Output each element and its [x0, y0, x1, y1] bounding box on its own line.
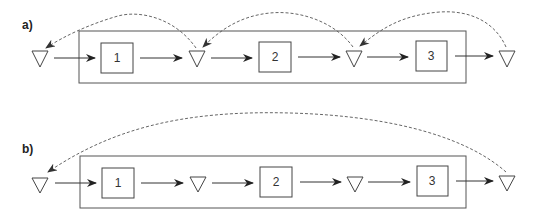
- stage-box-2-label: 2: [273, 175, 280, 189]
- buffer-triangle-icon: [189, 51, 205, 67]
- stage-box-2-label: 2: [272, 50, 279, 64]
- feedback-arc: [48, 113, 506, 172]
- stage-box-3-label: 3: [428, 49, 435, 63]
- buffer-triangle-icon: [32, 51, 48, 67]
- panel-a-label: a): [22, 18, 33, 32]
- stage-box-3-label: 3: [429, 174, 436, 188]
- feedback-arc: [360, 12, 506, 47]
- diagram-canvas: a) 1 2 3 b) 1: [0, 0, 539, 220]
- panel-a: a) 1 2 3: [22, 12, 515, 83]
- panel-b: b) 1 2 3: [22, 113, 515, 208]
- buffer-triangle-icon: [346, 51, 362, 67]
- panel-b-label: b): [22, 142, 33, 156]
- buffer-triangle-icon: [347, 177, 363, 192]
- buffer-triangle-icon: [32, 178, 48, 193]
- buffer-triangle-icon: [190, 177, 206, 192]
- buffer-triangle-icon: [499, 51, 515, 67]
- stage-box-1-label: 1: [115, 176, 122, 190]
- stage-box-1-label: 1: [114, 51, 121, 65]
- buffer-triangle-icon: [499, 176, 515, 191]
